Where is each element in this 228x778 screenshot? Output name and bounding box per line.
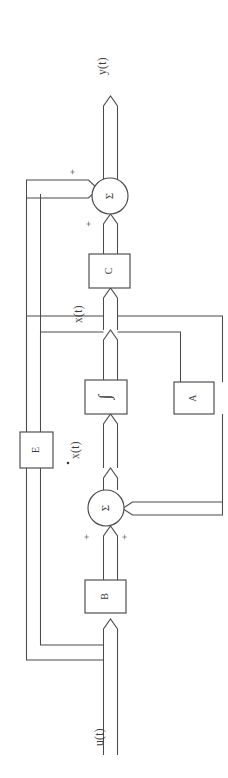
wire-xdot-to-integrator xyxy=(104,414,118,468)
wire-sum-state-to-xdot xyxy=(104,468,118,490)
signal-label-y: y(t) xyxy=(96,57,109,75)
signal-label-xdot: x(t) xyxy=(69,441,82,459)
block-b-label: B xyxy=(99,593,110,600)
block-a-label: A xyxy=(187,394,198,402)
wire-x-branch-to-e xyxy=(27,316,104,432)
wire-x-branch-to-a xyxy=(111,316,223,382)
wire-a-to-sum-state xyxy=(123,414,223,515)
block-integrator[interactable]: ∫ xyxy=(85,380,127,414)
block-diagram-canvas: C ∫ A E B Σ + + Σ + + y(t) x(t) x(t) u(t… xyxy=(0,0,228,778)
summing-junction-state-glyph: Σ xyxy=(99,505,111,511)
xdot-dot-accent xyxy=(67,462,70,465)
summing-junction-output[interactable]: Σ xyxy=(92,178,128,214)
block-e[interactable]: E xyxy=(20,432,53,468)
signal-label-x: x(t) xyxy=(72,305,85,323)
sign-sum-state-left: + xyxy=(81,534,92,540)
summing-junction-state[interactable]: Σ xyxy=(88,490,124,526)
sign-sum-state-right: + xyxy=(119,534,130,540)
block-b[interactable]: B xyxy=(85,580,126,613)
block-c-label: C xyxy=(103,267,114,274)
block-a[interactable]: A xyxy=(174,382,214,414)
block-c[interactable]: C xyxy=(89,254,130,288)
wire-c-to-sum-output xyxy=(104,214,118,254)
summing-junction-output-glyph: Σ xyxy=(103,193,115,199)
block-e-label: E xyxy=(30,447,41,453)
wire-u-to-b xyxy=(104,619,118,755)
sign-sum-output-top: + xyxy=(67,169,78,175)
wire-b-to-sum-state xyxy=(104,526,118,580)
wire-x-to-c xyxy=(104,288,118,330)
signal-label-xdot-group: x(t) xyxy=(67,441,82,464)
wire-integrator-to-x xyxy=(104,330,118,380)
sign-sum-output-bottom: + xyxy=(83,221,94,227)
signal-label-u: u(t) xyxy=(93,728,106,746)
